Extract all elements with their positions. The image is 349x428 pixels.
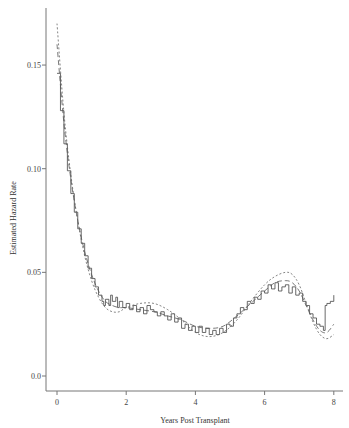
x-tick-label: 4 [193,398,197,407]
x-tick-label: 0 [55,398,59,407]
y-tick-label: 0.15 [27,61,41,70]
series-line-1 [57,73,334,334]
hazard-rate-chart: 0.00.050.100.15 Estimated Hazard Rate 02… [0,0,349,428]
y-axis: 0.00.050.100.15 Estimated Hazard Rate [9,8,46,391]
x-axis-ticks: 02468 [55,391,336,407]
y-tick-label: 0.0 [31,372,41,381]
y-tick-label: 0.05 [27,268,41,277]
y-tick-label: 0.10 [27,165,41,174]
y-axis-ticks: 0.00.050.100.15 [27,61,46,381]
plot-area [57,24,334,339]
x-axis-title: Years Post Transplant [160,416,230,425]
x-tick-label: 8 [332,398,336,407]
x-tick-label: 2 [124,398,128,407]
y-axis-title: Estimated Hazard Rate [9,181,18,255]
x-axis: 02468 Years Post Transplant [46,391,343,425]
x-tick-label: 6 [263,398,267,407]
